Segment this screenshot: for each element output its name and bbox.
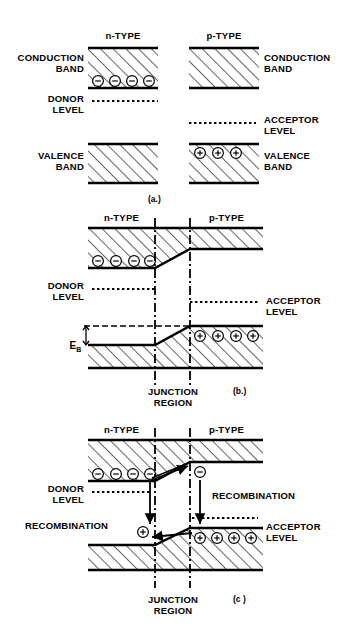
panel-b-acceptor-level-label: ACCEPTOR LEVEL bbox=[266, 295, 351, 317]
panel-b-p-type-label: p-TYPE bbox=[190, 212, 263, 223]
panel-a-valence-band-label-left: VALENCE BAND bbox=[0, 150, 84, 172]
panel-c-n-type-label: n-TYPE bbox=[88, 424, 155, 435]
panel-a-caption: (a.) bbox=[148, 194, 161, 204]
panel-b-donor-level-label: DONOR LEVEL bbox=[0, 280, 84, 302]
panel-c-donor-level-label: DONOR LEVEL bbox=[0, 483, 84, 505]
panel-b-caption: (b.) bbox=[233, 386, 246, 396]
panel-c-acceptor-level-label: ACCEPTOR LEVEL bbox=[266, 521, 351, 543]
panel-a-conduction-band-label-right: CONDUCTION BAND bbox=[264, 52, 350, 74]
panel-c-junction-region-label: JUNCTION REGION bbox=[118, 594, 228, 616]
panel-b-n-type-label: n-TYPE bbox=[88, 212, 155, 223]
panel-c-p-type-label: p-TYPE bbox=[190, 424, 263, 435]
panel-a-donor-level-label: DONOR LEVEL bbox=[0, 93, 84, 115]
panel-c-injected-hole bbox=[138, 527, 149, 538]
panel-a-n-type-label: n-TYPE bbox=[88, 30, 158, 41]
panel-a-holes bbox=[195, 148, 242, 159]
panel-a-p-type-label: p-TYPE bbox=[189, 30, 259, 41]
panel-a-p-conduction-band bbox=[189, 48, 259, 88]
panel-a-valence-band-label-right: VALENCE BAND bbox=[264, 150, 350, 172]
panel-c-recombination-label-left: RECOMBINATION bbox=[25, 520, 108, 531]
panel-c-recombination-label-right: RECOMBINATION bbox=[212, 490, 295, 501]
panel-b-barrier-subscript: B bbox=[76, 346, 81, 353]
panel-c-caption: (c ) bbox=[233, 594, 246, 604]
panel-a-conduction-band-label-left: CONDUCTION BAND bbox=[0, 52, 84, 74]
panel-b-barrier-energy-label: EB bbox=[64, 329, 81, 353]
panel-a-n-valence-band bbox=[88, 144, 158, 183]
panel-a-acceptor-level-label: ACCEPTOR LEVEL bbox=[264, 114, 350, 136]
panel-c-injected-electron bbox=[195, 467, 206, 478]
panel-b-junction-region-label: JUNCTION REGION bbox=[118, 386, 228, 408]
band-diagram-figure: n-TYPE p-TYPE CONDUCTION BAND CONDUCTION… bbox=[0, 0, 351, 637]
